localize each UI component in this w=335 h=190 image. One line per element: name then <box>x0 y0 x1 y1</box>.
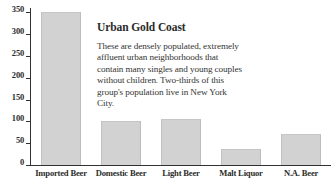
y-tick-mark <box>26 165 30 166</box>
x-axis-labels: Imported BeerDomestic BeerLight BeerMalt… <box>31 167 331 183</box>
x-axis-label: N.A. Beer <box>271 167 331 180</box>
y-tick-label: 200 <box>12 71 24 80</box>
annotation-box: Urban Gold Coast These are densely popul… <box>97 21 245 109</box>
y-tick-label: 0 <box>20 158 24 167</box>
x-axis-line <box>30 165 331 166</box>
y-tick-mark <box>26 78 30 79</box>
y-tick-mark <box>26 121 30 122</box>
y-tick-label: 300 <box>12 27 24 36</box>
y-tick-mark <box>26 12 30 13</box>
y-tick-mark <box>26 100 30 101</box>
y-tick-label: 250 <box>12 49 24 58</box>
y-tick-label: 100 <box>12 114 24 123</box>
x-axis-label: Imported Beer <box>31 167 91 180</box>
y-tick-label: 350 <box>12 5 24 14</box>
y-tick-mark <box>26 56 30 57</box>
bar-slot <box>41 8 81 165</box>
bar <box>221 149 261 165</box>
bar <box>101 121 141 165</box>
y-tick-mark <box>26 143 30 144</box>
bar-slot <box>281 8 321 165</box>
x-axis-label: Malt Liquor <box>211 167 271 180</box>
bar <box>281 134 321 165</box>
y-tick-label: 50 <box>16 136 24 145</box>
x-axis-label: Light Beer <box>151 167 211 180</box>
y-tick-label: 150 <box>12 93 24 102</box>
y-tick-mark <box>26 34 30 35</box>
bar-chart: 050100150200250300350 Imported BeerDomes… <box>0 0 335 190</box>
x-axis-label: Domestic Beer <box>91 167 151 180</box>
bar <box>161 119 201 165</box>
bar <box>41 12 81 165</box>
annotation-body: These are densely populated, extremely a… <box>97 41 245 109</box>
annotation-title: Urban Gold Coast <box>97 21 245 34</box>
